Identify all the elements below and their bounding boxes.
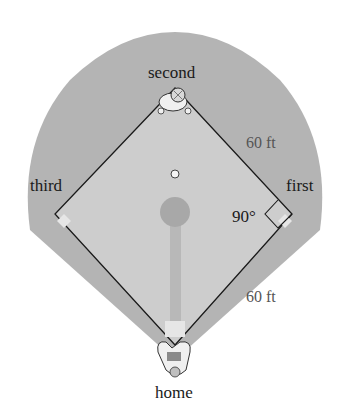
- label-angle: 90°: [232, 207, 256, 226]
- baseball-diamond-diagram: second third first home 60 ft 60 ft 90°: [0, 0, 347, 419]
- label-side-lower: 60 ft: [246, 288, 276, 305]
- catcher-icon: [158, 342, 191, 377]
- label-side-upper: 60 ft: [246, 134, 276, 151]
- base-path-strip: [170, 220, 181, 330]
- pitchers-mound: [160, 197, 190, 227]
- label-third: third: [30, 176, 63, 195]
- home-plate: [165, 321, 185, 337]
- label-first: first: [286, 176, 314, 195]
- ball-icon: [171, 170, 179, 178]
- label-home: home: [155, 383, 193, 402]
- label-second: second: [148, 63, 196, 82]
